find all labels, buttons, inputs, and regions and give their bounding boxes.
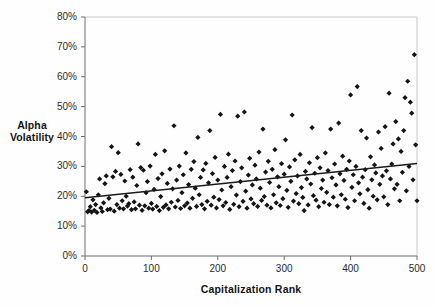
data-point [357,191,362,196]
data-point [158,194,163,199]
data-point [166,206,171,211]
data-point [117,206,122,211]
data-point [324,190,329,195]
data-point [175,198,180,203]
data-point [270,167,275,172]
data-point [169,200,174,205]
data-point [258,186,263,191]
data-point [181,172,186,177]
scatter-points [84,52,420,215]
y-tick-label: 30% [43,161,77,171]
data-point [367,206,372,211]
data-point [268,205,273,210]
data-point [298,152,303,157]
data-point [348,92,353,97]
data-point [400,170,405,175]
data-point [198,175,203,180]
data-point [116,150,121,155]
data-point [296,201,301,206]
y-tick-label: 0% [43,251,77,261]
x-tick-label: 300 [264,264,304,274]
data-point [235,114,240,119]
data-point [259,198,264,203]
data-point [264,203,269,208]
data-point [97,176,102,181]
data-point [224,175,229,180]
trend-line [85,163,417,197]
data-point [227,207,232,212]
data-point [129,207,134,212]
data-point [210,171,215,176]
data-point [288,179,293,184]
data-point [401,128,406,133]
data-point [394,182,399,187]
data-point [335,203,340,208]
data-point [128,167,133,172]
data-point [409,111,414,116]
data-point [209,203,214,208]
data-point [230,168,235,173]
data-point [118,172,123,177]
y-tick-label: 80% [43,12,77,22]
data-point [222,164,227,169]
data-point [303,169,308,174]
data-point [321,200,326,205]
data-point [93,202,98,207]
data-point [307,160,312,165]
data-point [272,147,277,152]
data-point [332,161,337,166]
data-point [294,191,299,196]
data-point [398,149,403,154]
data-point [106,196,111,201]
data-point [246,172,251,177]
data-point [283,137,288,142]
data-point [191,159,196,164]
data-point [291,198,296,203]
data-point [279,161,284,166]
data-point [232,158,237,163]
data-point [368,154,373,159]
data-point [134,183,139,188]
data-point [328,126,333,131]
data-point [104,173,109,178]
data-point [387,91,392,96]
data-point [278,203,283,208]
data-point [347,158,352,163]
data-point [199,202,204,207]
data-point [333,182,338,187]
data-point [266,159,271,164]
y-tick-label: 40% [43,132,77,142]
data-point [121,206,126,211]
data-point [215,178,220,183]
data-point [323,150,328,155]
data-point [339,192,344,197]
data-point [292,157,297,162]
data-point [255,204,260,209]
data-point [351,172,356,177]
x-tick-label: 400 [331,264,371,274]
data-point [287,164,292,169]
data-point [236,204,241,209]
data-point [252,163,257,168]
data-point [248,196,253,201]
data-point [372,162,377,167]
data-point [410,177,415,182]
data-point [155,176,160,181]
data-point [179,190,184,195]
x-axis-title: Capitalization Rank [85,283,417,295]
data-point [414,198,419,203]
data-point [113,169,118,174]
data-point [242,109,247,114]
data-point [194,204,199,209]
data-point [376,129,381,134]
data-point [360,175,365,180]
data-point [124,194,129,199]
data-point [263,169,268,174]
data-point [271,192,276,197]
data-point [101,200,106,205]
data-point [315,155,320,160]
data-point [171,123,176,128]
data-point [201,167,206,172]
data-point [247,156,252,161]
data-point [369,177,374,182]
